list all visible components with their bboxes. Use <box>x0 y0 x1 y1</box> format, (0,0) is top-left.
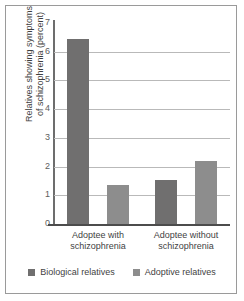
bar-adoptive-group-1 <box>195 161 217 224</box>
bar-biological-group-1 <box>155 180 177 225</box>
y-tick-label-4: 4 <box>24 104 50 113</box>
y-tick-label-7: 7 <box>24 18 50 27</box>
legend-item-biological: Biological relatives <box>28 268 115 277</box>
y-tick-label-3: 3 <box>24 133 50 142</box>
legend-label-adoptive: Adoptive relatives <box>145 268 216 277</box>
bar-biological-group-0 <box>67 39 89 224</box>
bar-adoptive-group-0 <box>107 185 129 224</box>
chart-legend: Biological relatives Adoptive relatives <box>6 268 238 277</box>
y-tick-label-5: 5 <box>24 75 50 84</box>
legend-label-biological: Biological relatives <box>40 268 115 277</box>
legend-swatch-biological-icon <box>28 269 35 276</box>
legend-item-adoptive: Adoptive relatives <box>133 268 216 277</box>
x-axis-line <box>48 224 230 226</box>
x-axis-category-0-line-1: Adoptee with <box>48 230 148 241</box>
y-tick-label-6: 6 <box>24 47 50 56</box>
y-tick-label-2: 2 <box>24 162 50 171</box>
plot-area <box>54 23 230 224</box>
x-axis-category-1: Adoptee without schizophrenia <box>136 230 236 252</box>
y-tick-label-0: 0 <box>24 219 50 228</box>
x-axis-category-0: Adoptee with schizophrenia <box>48 230 148 252</box>
x-axis-category-1-line-1: Adoptee without <box>136 230 236 241</box>
chart-figure: Relatives showing symptoms of schizophre… <box>5 5 237 294</box>
x-axis-category-1-line-2: schizophrenia <box>136 241 236 252</box>
y-tick-label-1: 1 <box>24 190 50 199</box>
x-axis-category-0-line-2: schizophrenia <box>48 241 148 252</box>
y-axis-ticks: 01234567 <box>20 6 50 241</box>
legend-swatch-adoptive-icon <box>133 269 140 276</box>
